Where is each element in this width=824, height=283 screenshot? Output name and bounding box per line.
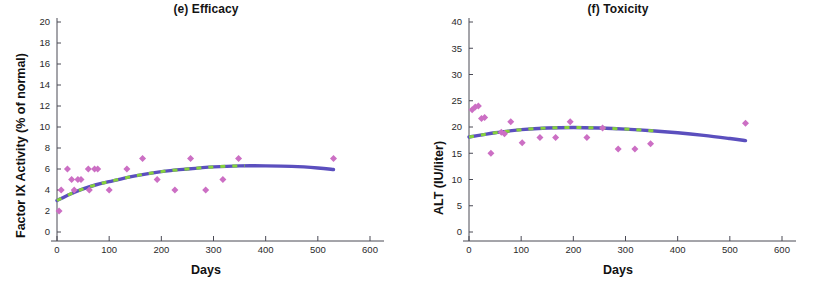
- x-tick-label: 500: [310, 244, 326, 255]
- x-tick-label: 400: [258, 244, 274, 255]
- y-tick-label: 18: [39, 37, 50, 48]
- data-point-marker: [171, 187, 178, 194]
- data-point-marker: [519, 139, 526, 146]
- data-point-marker: [647, 140, 654, 147]
- data-point-marker: [507, 118, 514, 125]
- y-tick-label: 2: [45, 205, 50, 216]
- y-tick-label: 40: [451, 16, 462, 27]
- fit-line-blue: [469, 128, 745, 141]
- data-point-marker: [123, 166, 130, 173]
- data-point-marker: [330, 155, 337, 162]
- y-tick-label: 35: [451, 43, 462, 54]
- x-tick-label: 100: [513, 244, 529, 255]
- data-point-marker: [631, 146, 638, 153]
- y-tick-label: 0: [457, 226, 462, 237]
- data-point-marker: [583, 134, 590, 141]
- data-point-marker: [615, 146, 622, 153]
- plot-area-efficacy: 024681012141618200100200300400500600: [0, 0, 412, 283]
- x-tick-label: 0: [54, 244, 59, 255]
- data-point-marker: [187, 155, 194, 162]
- y-tick-label: 10: [39, 121, 50, 132]
- data-point-marker: [487, 150, 494, 157]
- y-tick-label: 25: [451, 95, 462, 106]
- y-tick-label: 30: [451, 69, 462, 80]
- data-point-marker: [536, 134, 543, 141]
- x-tick-label: 600: [774, 244, 790, 255]
- y-tick-label: 8: [45, 142, 50, 153]
- y-tick-label: 5: [457, 200, 462, 211]
- y-tick-label: 16: [39, 58, 50, 69]
- data-point-marker: [202, 187, 209, 194]
- y-tick-label: 10: [451, 174, 462, 185]
- data-point-marker: [139, 155, 146, 162]
- x-tick-label: 0: [466, 244, 471, 255]
- x-tick-label: 200: [153, 244, 169, 255]
- data-point-marker: [742, 120, 749, 127]
- data-point-marker: [599, 125, 606, 132]
- y-tick-label: 15: [451, 148, 462, 159]
- x-tick-label: 100: [101, 244, 117, 255]
- y-tick-label: 20: [451, 121, 462, 132]
- y-tick-label: 20: [39, 16, 50, 27]
- x-tick-label: 200: [565, 244, 581, 255]
- x-tick-label: 600: [362, 244, 378, 255]
- x-tick-label: 400: [670, 244, 686, 255]
- plot-area-toxicity: 05101520253035400100200300400500600: [412, 0, 824, 283]
- y-tick-label: 6: [45, 163, 50, 174]
- y-tick-label: 14: [39, 79, 50, 90]
- y-tick-label: 0: [45, 226, 50, 237]
- data-point-marker: [567, 118, 574, 125]
- data-point-marker: [85, 166, 92, 173]
- data-point-marker: [106, 187, 113, 194]
- data-point-marker: [235, 155, 242, 162]
- y-tick-label: 4: [45, 184, 50, 195]
- figure-panels-e-f: (e) Efficacy Factor IX Activity (% of no…: [0, 0, 824, 283]
- data-point-marker: [64, 166, 71, 173]
- data-point-marker: [154, 176, 161, 183]
- x-tick-label: 300: [618, 244, 634, 255]
- data-point-marker: [219, 176, 226, 183]
- data-point-marker: [552, 134, 559, 141]
- data-point-marker: [58, 187, 65, 194]
- panel-toxicity: (f) Toxicity ALT (IU/liter) Days 0510152…: [412, 0, 824, 283]
- y-tick-label: 12: [39, 100, 50, 111]
- x-tick-label: 500: [722, 244, 738, 255]
- x-tick-label: 300: [206, 244, 222, 255]
- data-point-marker: [68, 176, 75, 183]
- panel-efficacy: (e) Efficacy Factor IX Activity (% of no…: [0, 0, 412, 283]
